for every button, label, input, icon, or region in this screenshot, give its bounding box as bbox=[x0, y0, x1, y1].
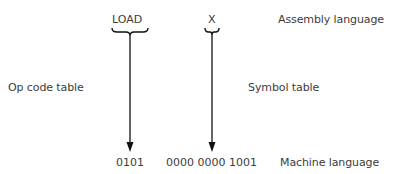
symbol-table-label: Symbol table bbox=[248, 81, 319, 95]
x-brace-icon bbox=[205, 28, 219, 35]
machine-opcode-bits: 0101 bbox=[116, 156, 144, 170]
load-brace-icon bbox=[112, 28, 148, 36]
machine-operand-bits: 0000 0000 1001 bbox=[166, 156, 257, 170]
opcode-table-label: Op code table bbox=[8, 81, 84, 95]
assembly-opcode: LOAD bbox=[112, 13, 142, 27]
machine-language-label: Machine language bbox=[280, 156, 379, 170]
assembly-operand: X bbox=[208, 13, 216, 27]
opcode-arrow-head-icon bbox=[127, 142, 134, 152]
assembly-language-label: Assembly language bbox=[278, 13, 384, 27]
operand-arrow-head-icon bbox=[209, 142, 216, 152]
